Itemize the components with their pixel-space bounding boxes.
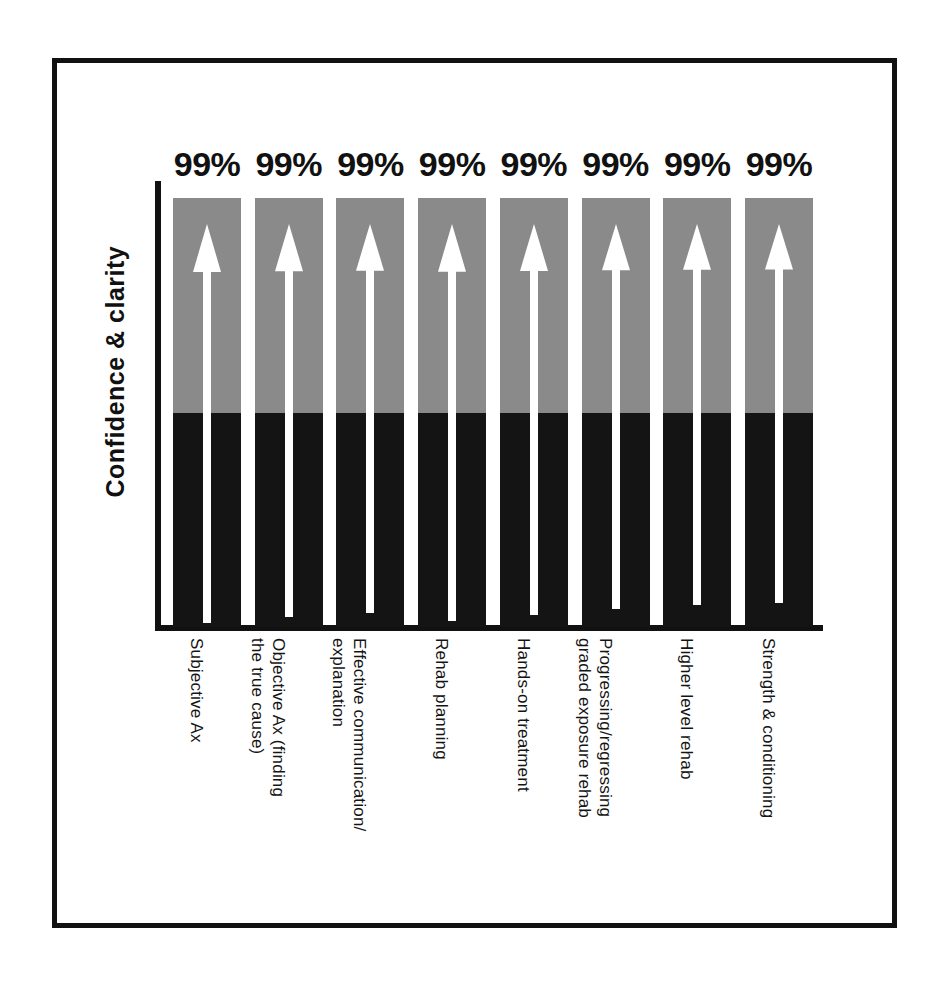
x-tick-label-line2: explanation [328, 638, 349, 831]
x-tick-label-line1: Progressing/regressing [596, 638, 615, 817]
x-tick-label-line1: Hands-on treatment [514, 638, 533, 792]
x-tick-label: Hands-on treatment [500, 638, 568, 888]
y-axis-title: Confidence & clarity [101, 258, 130, 498]
x-tick-label-line1: Subjective Ax [187, 638, 206, 743]
bar-column: 99% [663, 198, 731, 627]
x-axis-tick-labels: Subjective Ax Objective Ax (finding the … [173, 638, 813, 888]
x-tick-label-line2: the true cause) [246, 638, 267, 797]
bar-column: 99% [173, 198, 241, 627]
bar-value-label: 99% [255, 145, 322, 184]
x-tick-label: Effective communication/ explanation [336, 638, 404, 888]
x-tick-label: Subjective Ax [173, 638, 241, 888]
x-tick-label: Objective Ax (finding the true cause) [255, 638, 323, 888]
x-tick-label-line1: Higher level rehab [677, 638, 696, 780]
x-tick-label-line1: Rehab planning [432, 638, 451, 760]
bar-value-label: 99% [501, 145, 568, 184]
bar-column: 99% [418, 198, 486, 627]
x-tick-label-line1: Objective Ax (finding [269, 638, 288, 797]
poster-frame: Confidence & clarity 99% 99% [52, 58, 897, 928]
up-arrow-icon [355, 224, 385, 613]
x-tick-label: Strength & conditioning [745, 638, 813, 888]
bar-value-label: 99% [664, 145, 731, 184]
bar-value-label: 99% [419, 145, 486, 184]
up-arrow-icon [437, 224, 467, 621]
bar-value-label: 99% [174, 145, 241, 184]
bar-column: 99% [582, 198, 650, 627]
bar-column: 99% [255, 198, 323, 627]
up-arrow-icon [682, 224, 712, 605]
bar-column: 99% [745, 198, 813, 627]
x-tick-label: Rehab planning [418, 638, 486, 888]
y-axis-line [155, 181, 161, 631]
plot-area: 99% 99% [173, 198, 813, 627]
bar-value-label: 99% [337, 145, 404, 184]
x-tick-label: Higher level rehab [663, 638, 731, 888]
bar-column: 99% [336, 198, 404, 627]
x-tick-label: Progressing/regressing graded exposure r… [582, 638, 650, 888]
up-arrow-icon [764, 224, 794, 603]
up-arrow-icon [274, 224, 304, 617]
bar-column: 99% [500, 198, 568, 627]
up-arrow-icon [601, 224, 631, 609]
x-tick-label-line1: Effective communication/ [350, 638, 369, 831]
up-arrow-icon [192, 224, 222, 623]
x-tick-label-line2: graded exposure rehab [573, 638, 594, 818]
bar-value-label: 99% [746, 145, 813, 184]
bar-chart: Confidence & clarity 99% 99% [57, 63, 902, 933]
x-tick-label-line1: Strength & conditioning [759, 638, 778, 818]
up-arrow-icon [519, 224, 549, 615]
bar-value-label: 99% [582, 145, 649, 184]
